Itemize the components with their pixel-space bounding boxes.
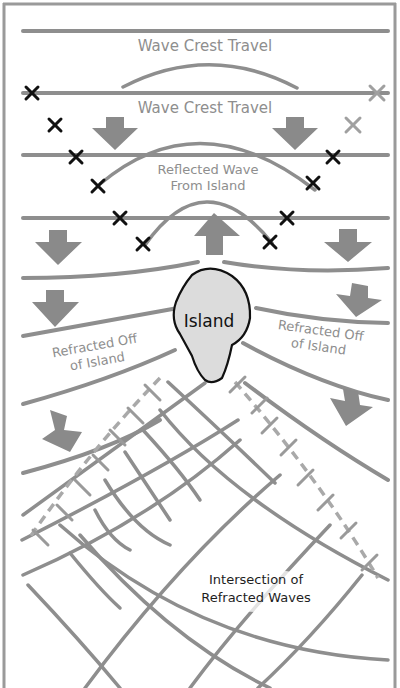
x-marker — [49, 119, 61, 131]
label-intersection-line1: Intersection of — [209, 572, 303, 587]
label-intersection-line2: Refracted Waves — [201, 590, 311, 605]
label-wave-crest-travel-1: Wave Crest Travel — [138, 37, 273, 55]
label-reflected-wave-line2: From Island — [170, 178, 245, 193]
wave-refraction-diagram: Wave Crest Travel Wave Crest Travel Refl… — [0, 0, 400, 688]
refracted-lattice — [22, 382, 388, 688]
arrow-down-icon — [35, 230, 82, 265]
arrow-down-icon — [272, 117, 318, 150]
arrow-down-icon — [42, 410, 82, 452]
arrow-down-icon — [32, 290, 79, 327]
label-reflected-wave-line1: Reflected Wave — [158, 162, 259, 177]
x-marker — [264, 236, 276, 248]
x-marker — [346, 118, 360, 132]
reflected-arc-1 — [123, 65, 297, 88]
arrow-down-icon — [336, 283, 382, 317]
label-wave-crest-travel-2: Wave Crest Travel — [138, 99, 273, 117]
arrow-down-icon — [92, 117, 138, 150]
label-island: Island — [184, 311, 235, 331]
x-marker — [92, 180, 104, 192]
arrow-down-icon — [324, 229, 372, 262]
